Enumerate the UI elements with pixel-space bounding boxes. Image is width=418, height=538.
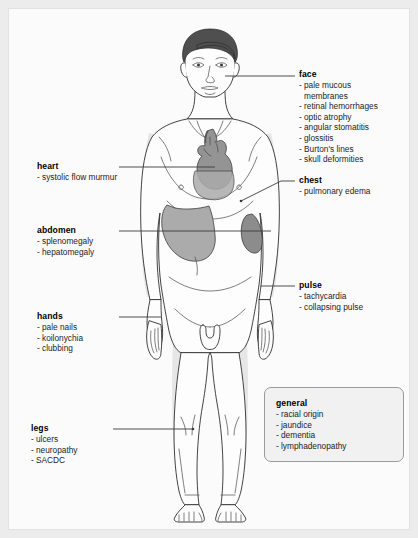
label-face-item-4: -angular stomatitis — [299, 122, 378, 133]
diagram-panel: .outline { fill: #fdfdfd; stroke: #2f2f2… — [8, 8, 410, 530]
label-general-item-1: -jaundice — [276, 420, 347, 431]
label-legs-item-1: -neuropathy — [31, 445, 78, 456]
label-hands-item-1: -koilonychia — [37, 333, 83, 344]
label-legs-item-2: -SACDC — [31, 455, 78, 466]
label-pulse-title: pulse — [299, 280, 363, 291]
label-heart: heart -systolic flow murmur — [37, 161, 117, 183]
label-face-item-5: -glossitis — [299, 133, 378, 144]
label-abdomen-title: abdomen — [37, 225, 94, 236]
label-heart-item-0: -systolic flow murmur — [37, 172, 117, 183]
label-face-item-1: membranes — [299, 91, 378, 102]
label-face-item-6: -Burton's lines — [299, 144, 378, 155]
label-face-item-0: -pale mucous — [299, 80, 378, 91]
label-hands-item-0: -pale nails — [37, 322, 83, 333]
label-abdomen-item-0: -splenomegaly — [37, 236, 94, 247]
label-pulse-item-0: -tachycardia — [299, 291, 363, 302]
label-hands-title: hands — [37, 311, 83, 322]
label-chest-item-0: -pulmonary edema — [299, 186, 370, 197]
label-hands: hands -pale nails -koilonychia -clubbing — [37, 311, 83, 354]
label-heart-title: heart — [37, 161, 117, 172]
anatomical-figure-root: .outline { fill: #fdfdfd; stroke: #2f2f2… — [0, 0, 418, 538]
label-face-item-2: -retinal hemorrhages — [299, 101, 378, 112]
label-chest-title: chest — [299, 175, 370, 186]
label-general: general -racial origin -jaundice -dement… — [276, 398, 347, 451]
label-general-item-2: -dementia — [276, 430, 347, 441]
label-hands-item-2: -clubbing — [37, 343, 83, 354]
label-pulse: pulse -tachycardia -collapsing pulse — [299, 280, 363, 312]
label-general-title: general — [276, 398, 347, 409]
label-face-item-7: -skull deformities — [299, 154, 378, 165]
label-general-item-3: -lymphadenopathy — [276, 441, 347, 452]
label-chest: chest -pulmonary edema — [299, 175, 370, 197]
body-group — [141, 29, 280, 522]
label-abdomen-item-1: -hepatomegaly — [37, 247, 94, 258]
label-general-item-0: -racial origin — [276, 409, 347, 420]
label-legs-item-0: -ulcers — [31, 434, 78, 445]
label-face: face -pale mucous membranes -retinal hem… — [299, 69, 378, 165]
label-legs: legs -ulcers -neuropathy -SACDC — [31, 423, 78, 466]
label-pulse-item-1: -collapsing pulse — [299, 302, 363, 313]
label-face-item-3: -optic atrophy — [299, 112, 378, 123]
label-face-title: face — [299, 69, 378, 80]
label-legs-title: legs — [31, 423, 78, 434]
label-abdomen: abdomen -splenomegaly -hepatomegaly — [37, 225, 94, 257]
